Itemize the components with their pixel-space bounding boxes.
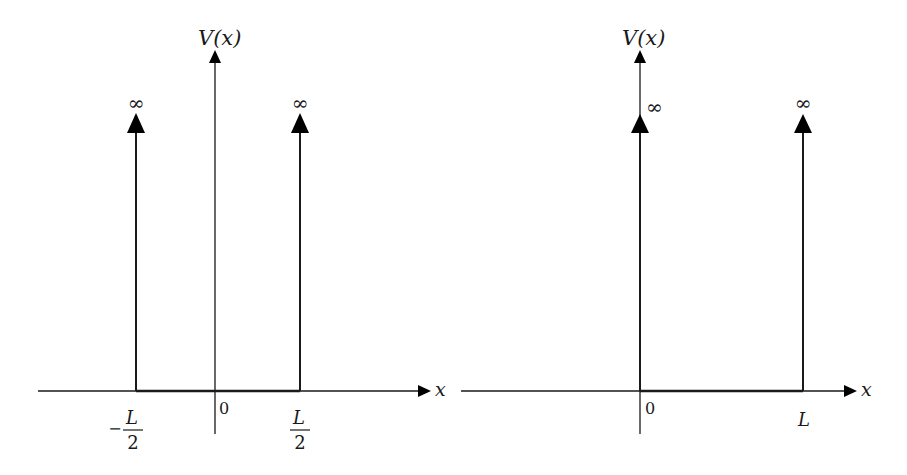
y-axis-label: V(x) (622, 26, 665, 50)
infinite-square-well-diagram: x V(x) 0 ∞ ∞ − L 2 L (0, 0, 907, 475)
y-axis-label: V(x) (198, 26, 241, 50)
wall-left-infinity-label: ∞ (128, 91, 145, 115)
tick-label-L-over-2: L 2 (290, 407, 310, 453)
wall-right: ∞ (291, 91, 309, 391)
panel-symmetric-well: x V(x) 0 ∞ ∞ − L 2 L (38, 26, 446, 453)
y-axis-arrow-icon (209, 50, 221, 63)
tick-label-minus-L-over-2: − L 2 (108, 407, 143, 453)
wall-left-infinity-label: ∞ (646, 95, 663, 119)
tick-label-L: L (797, 409, 810, 430)
panel-asymmetric-well: x V(x) 0 ∞ ∞ L (461, 26, 872, 434)
wall-right: ∞ (794, 91, 812, 391)
fraction-denominator: 2 (127, 432, 138, 453)
fraction-numerator: L (292, 407, 305, 428)
wall-right-arrow-icon (291, 113, 309, 133)
x-axis-arrow-icon (418, 385, 431, 397)
x-axis-arrow-icon (844, 385, 857, 397)
wall-right-infinity-label: ∞ (292, 91, 309, 115)
origin-label: 0 (219, 399, 229, 418)
minus-sign: − (108, 419, 121, 438)
x-axis-label: x (435, 378, 446, 400)
wall-left: ∞ (127, 91, 145, 391)
x-axis-label: x (861, 378, 872, 400)
fraction-denominator: 2 (294, 432, 305, 453)
wall-right-infinity-label: ∞ (795, 91, 812, 115)
y-axis-arrow-icon (634, 50, 646, 63)
wall-left: ∞ (631, 95, 663, 391)
origin-label: 0 (645, 399, 655, 418)
wall-right-arrow-icon (794, 114, 812, 133)
fraction-numerator: L (125, 407, 138, 428)
wall-left-arrow-icon (127, 113, 145, 133)
